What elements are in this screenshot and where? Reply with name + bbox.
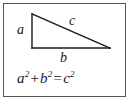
equation-plus-operator: + xyxy=(29,70,40,86)
label-hypotenuse-c: c xyxy=(69,14,75,28)
equation-term-a: a xyxy=(17,70,25,86)
pythagorean-theorem-figure: a b c a2+b2=c2 xyxy=(0,0,136,103)
right-triangle-drawing xyxy=(0,0,136,103)
equation-term-b: b xyxy=(40,70,48,86)
label-leg-b: b xyxy=(60,51,67,65)
equation-term-c: c xyxy=(63,70,70,86)
label-leg-a: a xyxy=(17,23,24,37)
pythagorean-equation: a2+b2=c2 xyxy=(17,70,75,87)
equation-equals-operator: = xyxy=(52,70,63,86)
equation-exponent-c: 2 xyxy=(70,69,75,79)
